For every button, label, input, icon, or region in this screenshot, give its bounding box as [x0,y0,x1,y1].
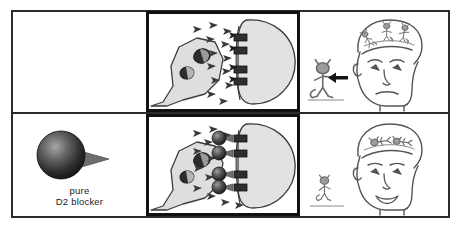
drug-label-line2: D2 blocker [13,196,146,207]
synapse-panel-blocked [146,114,300,216]
drug-label: pure D2 blocker [13,185,146,207]
patient-improved-graphic [300,114,448,216]
patient-panel-improved [300,114,448,216]
blocker-sphere [37,131,85,179]
empty-cell-graphic [13,12,146,112]
figure-root: pure D2 blocker [0,0,461,229]
drug-label-line1: pure [70,185,90,196]
patient-symptomatic-graphic [300,12,448,112]
synapse-blocked-graphic [149,117,297,213]
patient-panel-symptomatic [300,12,448,112]
top-left-empty-cell [13,12,146,112]
synapse-panel-untreated [146,11,300,112]
synapse-untreated-graphic [149,14,297,109]
